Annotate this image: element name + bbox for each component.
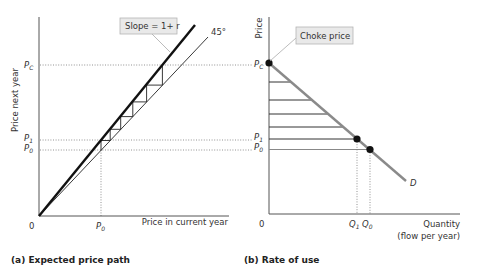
45-degree-line <box>39 37 208 216</box>
slope-line <box>39 25 195 216</box>
45-degree-label: 45° <box>211 27 226 37</box>
choke-point <box>265 59 272 66</box>
panel-a-caption: (a) Expected price path <box>11 255 130 265</box>
q0-tick: Q0 <box>362 219 373 230</box>
p0-tick: P0 <box>24 143 33 154</box>
y-axis-title: Price <box>254 18 264 39</box>
figure: Slope = 1+ r 45° Price next year PC P1 P… <box>0 0 479 266</box>
choke-leader <box>270 38 296 61</box>
choke-label: Choke price <box>300 31 350 41</box>
price-staircase <box>101 66 162 150</box>
x-axis-title: Price in current year <box>142 217 229 227</box>
pc-tick: PC <box>254 59 264 70</box>
origin-label: 0 <box>259 219 264 229</box>
panel-b: D Choke price Price PC P1 P0 0 Q1 Q0 Qua… <box>244 17 460 265</box>
q1-tick: Q1 <box>349 219 360 230</box>
demand-line <box>269 63 406 181</box>
p0-tick: P0 <box>254 142 263 153</box>
p1-q1-point <box>353 135 360 142</box>
x-axis-title-line2: (flow per year) <box>397 231 460 241</box>
x-p0-tick: P0 <box>96 221 105 232</box>
origin-label: 0 <box>29 221 34 231</box>
p0-q0-point <box>366 146 373 153</box>
slope-label: Slope = 1+ r <box>125 21 180 31</box>
pc-tick: PC <box>24 60 34 71</box>
slope-leader <box>152 34 170 52</box>
x-axis-title-line1: Quantity <box>423 219 460 229</box>
panel-a: Slope = 1+ r 45° Price next year PC P1 P… <box>10 17 252 265</box>
panel-b-caption: (b) Rate of use <box>244 255 319 265</box>
y-axis-title: Price next year <box>10 68 20 132</box>
demand-label: D <box>410 178 417 188</box>
